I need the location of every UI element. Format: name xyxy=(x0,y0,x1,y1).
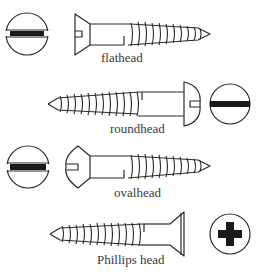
phillips-top-view-icon xyxy=(210,214,250,254)
roundhead-top-view-icon xyxy=(210,84,250,124)
ovalhead-label: ovalhead xyxy=(114,186,161,199)
phillips-screw-side-icon xyxy=(50,212,184,256)
ovalhead-screw-side-icon xyxy=(66,146,210,188)
ovalhead-top-view-icon xyxy=(5,146,51,188)
roundhead-screw-side-icon xyxy=(48,82,200,126)
flathead-top-view-icon xyxy=(4,13,50,55)
flathead-label: flathead xyxy=(101,51,143,64)
screw-diagram xyxy=(0,0,259,272)
roundhead-label: roundhead xyxy=(110,122,165,135)
phillips-head-label: Phillips head xyxy=(97,253,165,266)
flathead-screw-side-icon xyxy=(75,14,210,55)
